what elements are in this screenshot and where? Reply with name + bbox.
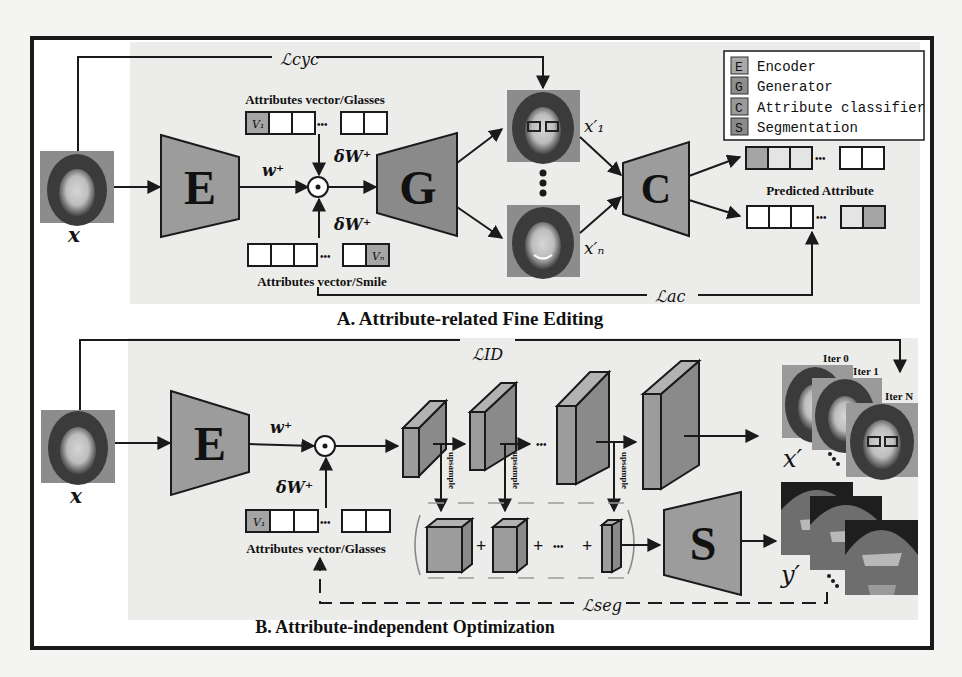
upsample-label-2: upsample [511, 452, 521, 489]
upsampled-cube-2 [493, 519, 527, 572]
legend-item-generator: G Generator [731, 77, 833, 95]
input-face-a [40, 151, 114, 226]
input-label-a: x [67, 223, 81, 247]
iter-n-image [846, 403, 918, 480]
seg-map-n [845, 520, 918, 595]
upsample-label-1: upsample [447, 452, 457, 489]
predicted-top-ellipsis: ••• [815, 153, 826, 164]
iter-n-label: Iter N [885, 390, 913, 402]
loss-cyc-label: ℒcyc [280, 50, 319, 69]
architecture-diagram: ℒcyc x E w⁺ Attributes vector/Glasses V₁… [0, 0, 962, 677]
output-x-label: x′ [783, 445, 803, 473]
vertical-ellipsis-a [540, 170, 547, 197]
delta-top-label: δW⁺ [333, 147, 371, 166]
latent-label-b: w⁺ [270, 418, 292, 437]
outputn-label: x′ₙ [584, 238, 604, 258]
loss-id-label: ℒID [472, 345, 503, 364]
encoder-label-b: E [194, 417, 226, 470]
vector-top-ellipsis: ••• [317, 119, 328, 130]
encoder-label-a: E [184, 161, 216, 214]
svg-text:E: E [735, 60, 743, 75]
vector-b-label: Attributes vector/Glasses [246, 541, 386, 556]
segmentation-label: S [690, 517, 717, 570]
section-b-title: B. Attribute-independent Optimization [255, 617, 555, 637]
output-face-glasses [507, 90, 580, 164]
input-face-b [41, 410, 115, 485]
vector-top-cell-label: V₁ [252, 118, 264, 131]
latent-label-a: w⁺ [262, 161, 284, 180]
iter-0-label: Iter 0 [823, 352, 849, 364]
upsampled-cube-1 [427, 519, 472, 572]
loss-ac-label: ℒac [655, 287, 686, 306]
vector-bottom-cell-label: Vₙ [372, 250, 384, 263]
aggregation-ellipsis: ••• [553, 541, 564, 552]
delta-label-b: δW⁺ [275, 478, 313, 497]
svg-text:Encoder: Encoder [757, 59, 816, 75]
upsampled-cube-3 [602, 520, 621, 572]
loss-seg-label: ℒseg [582, 596, 622, 615]
input-label-b: x [69, 484, 83, 508]
legend: E Encoder G Generator C Attribute classi… [724, 51, 925, 140]
upsample-label-3: upsample [620, 452, 630, 489]
output-y-label: y′ [780, 561, 801, 589]
plus-1: + [476, 536, 486, 556]
iter-1-label: Iter 1 [853, 365, 879, 377]
section-a-title: A. Attribute-related Fine Editing [337, 308, 604, 329]
delta-bottom-label: δW⁺ [333, 215, 371, 234]
output-face-smile [507, 205, 580, 279]
svg-text:Generator: Generator [757, 79, 833, 95]
svg-text:Attribute classifier: Attribute classifier [757, 100, 925, 116]
predicted-attribute-label: Predicted Attribute [766, 183, 874, 198]
legend-item-encoder: E Encoder [731, 57, 816, 75]
vector-top-label: Attributes vector/Glasses [245, 92, 385, 107]
vector-bottom-ellipsis: ••• [320, 251, 331, 262]
features-ellipsis: ••• [536, 439, 547, 450]
svg-text:S: S [735, 121, 743, 136]
plus-3: + [582, 536, 592, 556]
predicted-bottom-ellipsis: ••• [816, 212, 827, 223]
legend-item-classifier: C Attribute classifier [731, 98, 925, 116]
svg-text:G: G [735, 80, 743, 95]
modulation-dot-b [323, 444, 328, 449]
svg-text:Segmentation: Segmentation [757, 120, 858, 136]
svg-text:C: C [735, 101, 743, 116]
classifier-label: C [641, 166, 671, 212]
output1-label: x′₁ [584, 116, 604, 136]
vector-b-ellipsis: ••• [320, 517, 331, 528]
vector-b-cell-label: V₁ [253, 516, 265, 529]
plus-2: + [533, 536, 543, 556]
generator-label: G [399, 161, 436, 214]
modulation-dot-a [316, 185, 321, 190]
attribute-vector-glasses-b [246, 510, 390, 532]
vector-bottom-label: Attributes vector/Smile [257, 274, 387, 289]
